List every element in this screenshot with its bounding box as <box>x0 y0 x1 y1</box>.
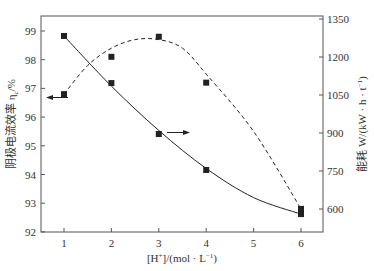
right-tick-label: 600 <box>327 203 344 215</box>
left-tick-label: 95 <box>25 140 37 152</box>
left-tick-label: 98 <box>25 54 37 66</box>
left-y-axis-title: 阴极电流效率 ηc/% <box>4 79 20 169</box>
data-point-marker <box>203 167 209 173</box>
right-tick-label: 750 <box>327 165 344 177</box>
left-tick-label: 94 <box>25 169 37 181</box>
data-point-marker <box>203 80 209 86</box>
left-tick-label: 96 <box>25 111 37 123</box>
data-point-marker <box>156 131 162 137</box>
x-tick-label: 3 <box>156 237 162 249</box>
right-y-axis-title: 能耗 W/(kW · h · t−1) <box>355 76 369 172</box>
energy-fit-curve <box>64 36 301 214</box>
x-axis-title: [H+]/(mol · L−1) <box>147 252 217 265</box>
x-tick-label: 1 <box>61 237 67 249</box>
efficiency-fit-curve <box>64 39 301 209</box>
left-tick-label: 92 <box>25 226 36 238</box>
chart: 9293949596979899600750900105012001350123… <box>0 0 374 271</box>
data-point-marker <box>298 206 304 212</box>
right-tick-label: 900 <box>327 127 344 139</box>
right-tick-label: 1200 <box>327 51 350 63</box>
right-tick-label: 1050 <box>327 89 350 101</box>
data-point-marker <box>61 33 67 39</box>
data-point-marker <box>156 34 162 40</box>
x-tick-label: 4 <box>203 237 209 249</box>
x-tick-label: 6 <box>298 237 304 249</box>
data-point-marker <box>298 211 304 217</box>
right-axis-arrow-icon <box>167 130 190 135</box>
x-tick-label: 5 <box>251 237 257 249</box>
data-point-marker <box>108 80 114 86</box>
right-tick-label: 1350 <box>327 13 350 25</box>
left-tick-label: 99 <box>25 25 37 37</box>
x-tick-label: 2 <box>109 237 115 249</box>
data-point-marker <box>108 54 114 60</box>
left-tick-label: 93 <box>25 197 37 209</box>
left-tick-label: 97 <box>25 82 37 94</box>
data-point-marker <box>61 91 67 97</box>
